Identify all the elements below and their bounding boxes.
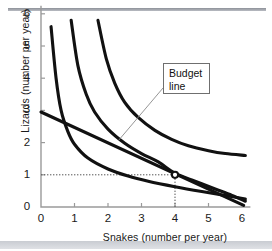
callout-line-1: Budget <box>169 67 209 80</box>
budget-line <box>41 112 244 205</box>
economics-indifference-curve-figure: 0123456 0123456 Lizards (number per year… <box>0 0 272 251</box>
budget-line-callout: Budget line <box>163 63 210 94</box>
indifference-curve-1 <box>51 27 245 199</box>
y-axis-title-wrap: Lizards (number per year) <box>15 1 33 141</box>
x-tick-label: 6 <box>234 212 250 224</box>
guide-lines-group <box>41 175 175 207</box>
x-tick-label: 5 <box>201 212 217 224</box>
y-tick-label: 0 <box>19 200 35 212</box>
callout-line-2: line <box>169 80 209 93</box>
y-tick-label: 1 <box>19 168 35 180</box>
x-tick-label: 4 <box>167 212 183 224</box>
data-point-markers <box>172 172 178 178</box>
best-affordable-point <box>172 172 178 178</box>
curves-group <box>41 20 245 205</box>
x-tick-label: 0 <box>33 212 49 224</box>
x-tick-label: 1 <box>67 212 83 224</box>
x-tick-label: 2 <box>100 212 116 224</box>
x-axis-title: Snakes (number per year) <box>103 231 227 243</box>
indifference-curve-2 <box>71 20 245 201</box>
x-axis-title-wrap: Snakes (number per year) <box>60 227 270 245</box>
y-axis-title: Lizards (number per year) <box>19 9 31 132</box>
x-tick-label: 3 <box>134 212 150 224</box>
